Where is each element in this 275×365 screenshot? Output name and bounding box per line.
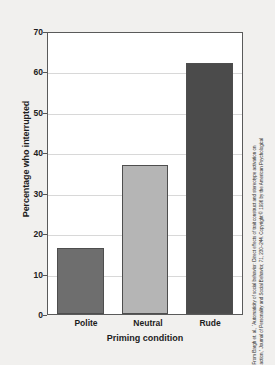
bar-polite xyxy=(57,248,104,314)
y-tick-label-40: 40 xyxy=(23,149,43,158)
bar-rude xyxy=(186,63,233,314)
source-credit: From Bargh et. al., “Automaticity of soc… xyxy=(250,0,275,365)
y-tick-label-20: 20 xyxy=(23,230,43,239)
x-tick-label-polite: Polite xyxy=(62,318,110,328)
y-tick-label-60: 60 xyxy=(23,68,43,77)
y-tick-label-30: 30 xyxy=(23,189,43,198)
y-tick-mark-0 xyxy=(43,315,47,316)
y-tick-label-70: 70 xyxy=(23,28,43,37)
bar-neutral xyxy=(122,165,169,314)
y-tick-label-0: 0 xyxy=(23,311,43,320)
plot-area xyxy=(47,32,243,315)
x-tick-label-neutral: Neutral xyxy=(124,318,172,328)
source-credit-line-1: From Bargh et. al., “Automaticity of soc… xyxy=(251,1,258,364)
x-axis-title: Priming condition xyxy=(47,333,243,343)
y-tick-label-10: 10 xyxy=(23,270,43,279)
y-tick-label-50: 50 xyxy=(23,109,43,118)
bar-chart-figure: Percentage who interrupted 0 10 20 30 40… xyxy=(0,0,275,365)
source-credit-line-2: action,” Journal of Personality and Soci… xyxy=(258,1,265,364)
x-tick-label-rude: Rude xyxy=(186,318,234,328)
y-axis-ticks: 0 10 20 30 40 50 60 70 xyxy=(21,0,43,365)
